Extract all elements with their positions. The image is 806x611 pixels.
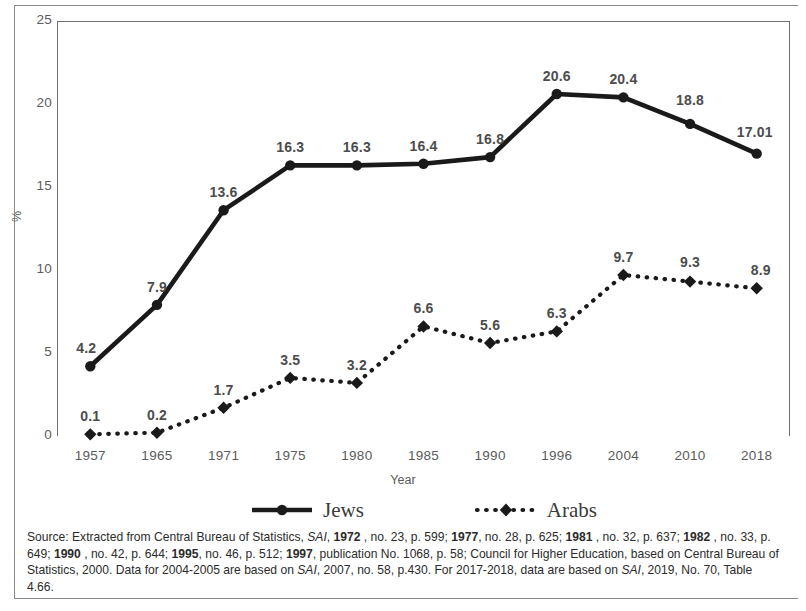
y-tick-label: 15	[6, 178, 52, 193]
data-label: 8.9	[751, 262, 771, 278]
y-axis-title: %	[10, 211, 24, 222]
data-label: 0.1	[80, 408, 100, 424]
data-label: 16.3	[343, 139, 371, 155]
data-label: 16.3	[276, 139, 304, 155]
chart-legend: Jews Arabs	[57, 495, 790, 525]
x-tick-label: 2018	[722, 448, 792, 463]
y-tick-label: 25	[6, 12, 52, 27]
x-tick-label: 1965	[122, 448, 192, 463]
data-label: 17.01	[737, 124, 773, 140]
source-line-1: Source: Extracted from Central Bureau of…	[27, 530, 757, 544]
x-tick-label: 2010	[655, 448, 725, 463]
y-axis: 0510152025	[0, 0, 52, 611]
y-tick-label: 20	[6, 95, 52, 110]
legend-item-jews[interactable]: Jews	[250, 498, 364, 523]
data-label: 9.7	[613, 249, 633, 265]
data-label: 13.6	[210, 184, 238, 200]
data-label: 18.8	[676, 92, 704, 108]
x-tick-label: 2004	[588, 448, 658, 463]
data-label: 3.5	[280, 352, 300, 368]
y-tick-label: 10	[6, 261, 52, 276]
legend-marker-solid-line-icon	[250, 503, 314, 517]
chart-figure: 0510152025 % 4.27.913.616.316.316.416.82…	[0, 0, 806, 611]
x-axis: 1957196519711975198019851990199620042010…	[57, 448, 790, 470]
legend-item-arabs[interactable]: Arabs	[474, 498, 597, 523]
data-label: 5.6	[480, 317, 500, 333]
y-tick-label: 5	[6, 344, 52, 359]
data-label: 16.4	[409, 138, 437, 154]
data-label: 20.4	[609, 71, 637, 87]
data-label: 6.3	[547, 305, 567, 321]
data-label: 16.8	[476, 131, 504, 147]
data-label: 4.2	[76, 340, 96, 356]
x-tick-label: 1957	[55, 448, 125, 463]
y-tick-label: 0	[6, 427, 52, 442]
data-label: 6.6	[413, 300, 433, 316]
legend-label-jews: Jews	[323, 498, 364, 523]
data-label: 3.2	[347, 357, 367, 373]
data-label: 7.9	[147, 279, 167, 295]
x-tick-label: 1975	[255, 448, 325, 463]
data-label: 0.2	[147, 407, 167, 423]
data-label: 9.3	[680, 254, 700, 270]
legend-marker-dotted-line-icon	[474, 503, 538, 517]
x-axis-title: Year	[0, 473, 806, 487]
data-label: 1.7	[214, 382, 234, 398]
data-label: 20.6	[543, 68, 571, 84]
axis-baseline-cover	[57, 436, 790, 438]
x-tick-label: 1971	[189, 448, 259, 463]
x-tick-label: 1980	[322, 448, 392, 463]
legend-label-arabs: Arabs	[547, 498, 597, 523]
x-tick-label: 1985	[389, 448, 459, 463]
plot-area	[57, 21, 790, 437]
x-tick-label: 1996	[522, 448, 592, 463]
x-tick-label: 1990	[455, 448, 525, 463]
source-note: Source: Extracted from Central Bureau of…	[27, 529, 779, 595]
